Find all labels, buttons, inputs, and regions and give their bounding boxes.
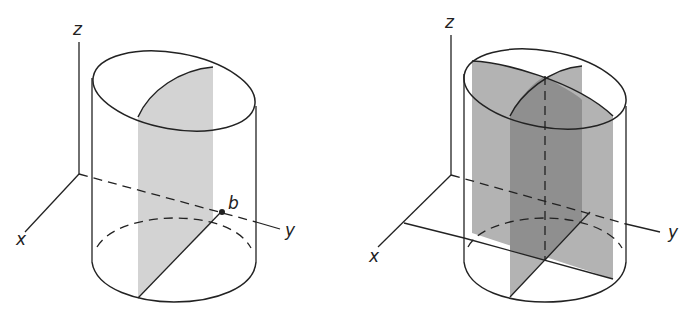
right-y-label: y (667, 222, 679, 242)
point-b-label: b (228, 193, 239, 213)
right-z-label: z (444, 12, 455, 32)
left-x-label: x (15, 229, 27, 249)
left-x-axis (25, 174, 79, 232)
left-slice-plane (138, 67, 213, 298)
right-x-guide-line (404, 223, 464, 238)
left-cylinder-figure: z x y b (15, 19, 296, 302)
figure-canvas: z x y b z x y (0, 0, 693, 317)
left-z-label: z (72, 19, 83, 39)
left-y-axis (256, 222, 280, 229)
right-cylinder-figure: z x y (368, 12, 679, 302)
point-b-marker (219, 209, 225, 215)
left-bottom-ellipse-front (92, 262, 256, 302)
right-x-label: x (368, 246, 380, 266)
right-y-axis (626, 224, 660, 232)
right-x-axis (378, 175, 451, 247)
left-y-label: y (284, 220, 296, 240)
